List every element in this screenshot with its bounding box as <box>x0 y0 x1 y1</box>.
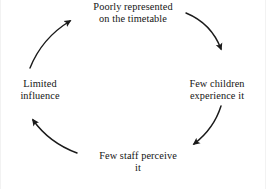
node-label-left-line1: Limited <box>2 78 78 90</box>
node-label-top-line1: Poorly represented <box>63 1 203 13</box>
node-label-top: Poorly represented on the timetable <box>63 1 203 24</box>
arrow-right-to-bottom <box>194 106 221 144</box>
node-label-left: Limited influence <box>2 78 78 101</box>
node-label-bottom-line1: Few staff perceive <box>78 150 198 162</box>
node-label-right: Few children experience it <box>168 78 266 101</box>
node-label-right-line2: experience it <box>168 90 266 102</box>
node-label-right-line1: Few children <box>168 78 266 90</box>
arrow-left-to-top <box>30 21 70 68</box>
arrow-bottom-to-left <box>33 120 77 153</box>
node-label-top-line2: on the timetable <box>63 13 203 25</box>
node-label-bottom-line2: it <box>78 162 198 174</box>
node-label-left-line2: influence <box>2 90 78 102</box>
cycle-diagram-canvas: Poorly represented on the timetable Few … <box>0 0 266 189</box>
node-label-bottom: Few staff perceive it <box>78 150 198 173</box>
